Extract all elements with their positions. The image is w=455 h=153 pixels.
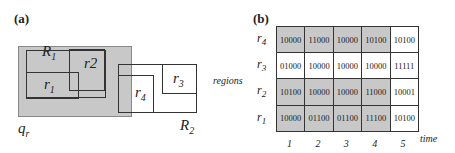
col-label: 2 <box>315 138 320 149</box>
label-qr: qr <box>18 120 29 139</box>
x-axis-label: time <box>420 133 437 144</box>
col-label: 4 <box>372 138 377 149</box>
col-label: 1 <box>287 138 292 149</box>
table-cell: 10000 <box>304 78 333 105</box>
table-cell: 10100 <box>390 26 419 53</box>
label-r1: r1 <box>44 76 55 95</box>
row-label: r4 <box>257 31 266 47</box>
table-cell: 10000 <box>304 52 333 79</box>
label-R2: R2 <box>180 117 194 136</box>
y-axis-label: regions <box>213 75 243 86</box>
table-cell: 10000 <box>276 26 305 53</box>
row-label: r2 <box>257 83 266 99</box>
table-cell: 10100 <box>361 26 390 53</box>
table-cell: 01000 <box>276 52 305 79</box>
row-label: r1 <box>257 110 266 126</box>
table-cell: 10100 <box>276 78 305 105</box>
col-label: 5 <box>401 138 406 149</box>
table-cell: 11000 <box>361 78 390 105</box>
table-cell: 10000 <box>333 52 362 79</box>
table-cell: 11000 <box>304 26 333 53</box>
table-cell: 10001 <box>390 78 419 105</box>
label-r3: r3 <box>173 70 184 89</box>
table-cell: 11111 <box>390 52 419 79</box>
table-cell: 10100 <box>390 105 419 132</box>
table-cell: 10000 <box>333 26 362 53</box>
table-cell: 01100 <box>304 105 333 132</box>
label-r4: r4 <box>135 84 146 103</box>
table-cell: 10000 <box>333 78 362 105</box>
table-cell: 10000 <box>276 105 305 132</box>
panel-b-label: (b) <box>253 11 269 27</box>
col-label: 3 <box>344 138 349 149</box>
table-cell: 10000 <box>361 52 390 79</box>
row-label: r3 <box>257 57 266 73</box>
label-R1: R1 <box>42 43 56 62</box>
label-r2: r2 <box>84 55 97 72</box>
figure: (a) R1 r2 r1 r4 r3 qr R2 (b) regions tim… <box>0 0 455 153</box>
table-cell: 01100 <box>333 105 362 132</box>
panel-a-label: (a) <box>14 11 29 27</box>
table-cell: 11100 <box>361 105 390 132</box>
